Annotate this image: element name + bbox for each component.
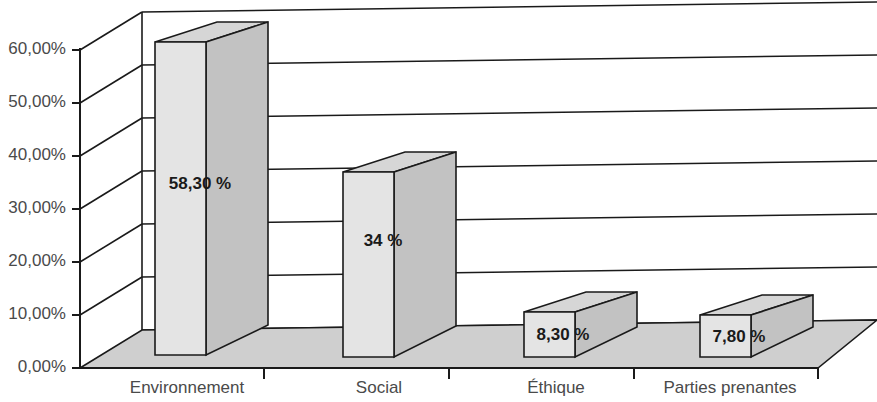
y-axis-label-0: 0,00% [18, 357, 66, 376]
backwall-top-edge [142, 2, 877, 12]
connector-60 [80, 12, 142, 50]
bar-chart-3d: 60,00% 50,00% 40,00% 30,00% 20,00% 10,00… [0, 0, 877, 402]
y-axis-label-20: 20,00% [8, 251, 66, 270]
bar-social-side [394, 152, 456, 357]
x-axis-label-environnement: Environnement [130, 378, 245, 397]
bar-environnement-value: 58,30 % [169, 174, 231, 193]
y-axis-label-60: 60,00% [8, 39, 66, 58]
y-axis-label-40: 40,00% [8, 145, 66, 164]
y-axis: 60,00% 50,00% 40,00% 30,00% 20,00% 10,00… [8, 39, 80, 376]
bar-social[interactable]: 34 % [343, 152, 456, 357]
y-axis-label-10: 10,00% [8, 304, 66, 323]
x-axis-label-ethique: Éthique [527, 378, 585, 397]
bar-parties-prenantes-value: 7,80 % [713, 327, 766, 346]
connector-20 [80, 224, 142, 262]
bar-social-value: 34 % [364, 231, 403, 250]
connector-40 [80, 118, 142, 156]
connector-50 [80, 65, 142, 103]
bar-environnement-front [155, 42, 206, 355]
depth-connectors [80, 12, 142, 315]
bar-environnement[interactable]: 58,30 % [155, 22, 268, 355]
connector-10 [80, 277, 142, 315]
y-axis-label-50: 50,00% [8, 92, 66, 111]
y-axis-label-30: 30,00% [8, 198, 66, 217]
x-axis: Environnement Social Éthique Parties pre… [80, 368, 818, 397]
chart-container: 60,00% 50,00% 40,00% 30,00% 20,00% 10,00… [0, 0, 877, 402]
x-axis-label-social: Social [356, 378, 402, 397]
bar-ethique-value: 8,30 % [537, 325, 590, 344]
x-axis-label-parties-prenantes: Parties prenantes [663, 378, 796, 397]
bar-social-front [343, 172, 394, 357]
connector-30 [80, 171, 142, 209]
